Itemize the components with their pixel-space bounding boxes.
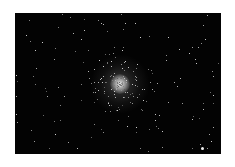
star xyxy=(91,137,92,138)
star xyxy=(137,64,138,65)
star xyxy=(98,82,99,83)
star xyxy=(113,53,114,54)
star xyxy=(136,77,137,78)
star xyxy=(98,90,99,91)
star xyxy=(128,116,129,117)
star xyxy=(136,132,137,133)
star xyxy=(95,88,96,89)
star xyxy=(16,96,17,97)
star xyxy=(218,63,219,64)
star xyxy=(121,85,122,86)
star xyxy=(84,19,85,20)
star xyxy=(132,93,133,94)
star xyxy=(115,97,116,98)
star xyxy=(174,82,175,83)
star xyxy=(97,99,98,100)
star xyxy=(120,86,121,87)
star xyxy=(193,116,194,117)
star xyxy=(121,83,122,84)
star xyxy=(95,92,96,93)
star xyxy=(47,96,48,97)
star xyxy=(132,103,133,104)
star xyxy=(116,110,117,111)
star xyxy=(168,102,169,103)
star xyxy=(103,66,104,67)
star xyxy=(100,79,101,80)
star xyxy=(128,97,129,98)
star xyxy=(154,91,155,92)
star xyxy=(77,148,78,149)
star xyxy=(120,85,121,86)
star xyxy=(152,73,153,74)
star xyxy=(133,96,134,97)
star xyxy=(105,111,106,112)
star xyxy=(81,39,82,40)
star xyxy=(140,37,141,38)
star xyxy=(119,82,120,83)
star xyxy=(17,122,18,123)
star xyxy=(30,41,31,42)
star xyxy=(205,39,206,40)
star xyxy=(148,69,149,70)
star xyxy=(123,47,124,48)
star xyxy=(35,50,36,51)
star xyxy=(179,49,180,50)
star xyxy=(166,60,167,61)
star xyxy=(107,31,108,32)
star xyxy=(136,127,137,128)
star xyxy=(42,42,43,43)
star xyxy=(149,36,150,37)
star xyxy=(157,83,158,84)
star xyxy=(212,71,213,72)
star xyxy=(201,43,202,44)
star xyxy=(111,75,112,76)
star xyxy=(70,17,71,18)
star xyxy=(192,119,193,120)
star xyxy=(137,97,138,98)
star xyxy=(93,92,94,93)
star xyxy=(209,134,210,135)
star xyxy=(58,87,59,88)
star xyxy=(98,20,99,21)
star xyxy=(49,148,50,149)
star xyxy=(102,82,103,83)
star xyxy=(81,84,82,85)
star xyxy=(121,14,122,15)
star xyxy=(198,47,199,48)
star xyxy=(34,141,35,142)
star xyxy=(73,33,74,34)
star xyxy=(17,81,18,82)
star xyxy=(133,71,134,72)
star xyxy=(60,105,61,106)
star xyxy=(162,131,163,132)
star xyxy=(16,114,17,115)
star xyxy=(105,54,106,55)
star xyxy=(54,121,55,122)
star xyxy=(75,51,76,52)
star xyxy=(114,91,115,92)
star xyxy=(136,68,137,69)
star xyxy=(60,120,61,121)
star xyxy=(192,47,193,48)
star xyxy=(144,89,145,90)
star xyxy=(31,130,32,131)
star xyxy=(125,23,126,24)
star xyxy=(136,80,137,81)
star xyxy=(89,78,90,79)
star xyxy=(101,129,102,130)
star xyxy=(125,92,126,93)
star xyxy=(104,87,105,88)
star xyxy=(115,87,116,88)
star xyxy=(180,78,181,79)
starfield-photo: Globular star cluster against a black st… xyxy=(15,13,221,154)
star xyxy=(127,126,128,127)
star xyxy=(158,128,159,129)
star xyxy=(103,132,104,133)
star xyxy=(114,47,115,48)
star xyxy=(36,68,37,69)
star xyxy=(142,110,143,111)
star xyxy=(210,92,211,93)
star xyxy=(162,147,163,148)
star xyxy=(55,48,56,49)
star xyxy=(99,60,100,61)
